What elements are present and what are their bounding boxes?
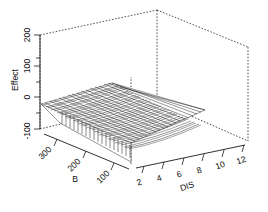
y-tick-label-300: 300 bbox=[36, 144, 53, 161]
x-tick-10 bbox=[222, 150, 224, 157]
y-tick-label-200: 200 bbox=[65, 156, 82, 173]
y-axis-title: B bbox=[72, 174, 78, 184]
x-tick-4 bbox=[162, 162, 164, 169]
z-tick-label-neg100: -100 bbox=[22, 122, 32, 139]
bounding-box bbox=[40, 10, 248, 164]
x-tick-label-6: 6 bbox=[175, 169, 183, 180]
x-axis-title: DIS bbox=[179, 179, 196, 193]
x-tick-label-8: 8 bbox=[195, 165, 203, 176]
y-tick-100 bbox=[111, 163, 114, 170]
x-tick-6 bbox=[182, 158, 184, 165]
plot-canvas: 200 100 0 -100 Effect 300 200 100 B bbox=[0, 0, 268, 212]
x-tick-8 bbox=[202, 154, 204, 161]
perspective-plot-figure: 200 100 0 -100 Effect 300 200 100 B bbox=[0, 0, 268, 212]
z-tick-label-200: 200 bbox=[22, 28, 32, 43]
x-tick-label-10: 10 bbox=[214, 159, 226, 172]
x-tick-label-4: 4 bbox=[155, 173, 163, 184]
z-tick-label-100: 100 bbox=[22, 59, 32, 74]
y-tick-300 bbox=[54, 139, 57, 146]
box-top-right-edge bbox=[157, 10, 248, 47]
x-axis-line bbox=[136, 145, 245, 168]
x-axis: 2 4 6 8 10 12 DIS bbox=[135, 145, 247, 193]
box-top-left-edge bbox=[40, 10, 157, 35]
x-tick-label-12: 12 bbox=[235, 154, 247, 167]
x-tick-label-2: 2 bbox=[135, 177, 143, 188]
surface-mesh bbox=[41, 83, 205, 162]
z-axis-title: Effect bbox=[10, 68, 20, 90]
z-axis: 200 100 0 -100 Effect bbox=[10, 28, 40, 140]
y-tick-label-100: 100 bbox=[94, 168, 111, 185]
surface-base-fill bbox=[41, 83, 205, 143]
z-tick-label-0: 0 bbox=[22, 94, 32, 99]
x-tick-12 bbox=[242, 145, 244, 152]
y-tick-200 bbox=[83, 151, 86, 158]
